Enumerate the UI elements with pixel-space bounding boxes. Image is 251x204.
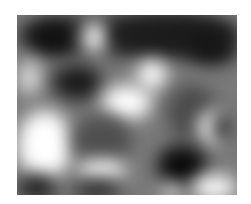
texture-blob bbox=[212, 110, 237, 145]
texture-blob bbox=[72, 180, 122, 195]
texture-blob bbox=[17, 60, 42, 95]
texture-blob bbox=[77, 160, 127, 180]
texture-blob bbox=[27, 20, 77, 55]
texture-blob bbox=[17, 175, 57, 195]
texture-blob bbox=[137, 60, 167, 90]
texture-blob bbox=[82, 20, 107, 55]
texture-blob bbox=[187, 35, 237, 65]
texture-blob bbox=[102, 85, 152, 120]
grayscale-texture-image bbox=[17, 15, 237, 195]
texture-blob bbox=[17, 110, 72, 180]
texture-blob bbox=[192, 175, 237, 195]
texture-blob bbox=[162, 185, 182, 195]
texture-blob bbox=[52, 65, 102, 100]
texture-blob bbox=[72, 115, 132, 165]
